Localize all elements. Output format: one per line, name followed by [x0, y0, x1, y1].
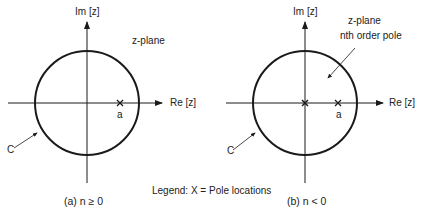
pole-label-a: a	[117, 110, 123, 120]
caption-a: (a) n ≥ 0	[64, 196, 103, 207]
imag-axis-label-a: Im [z]	[75, 7, 99, 17]
contour-label-b: C	[227, 146, 234, 156]
nth-order-pole-label: nth order pole	[340, 31, 402, 41]
plane-label-a: z-plane	[132, 36, 165, 46]
contour-label-a: C	[7, 145, 14, 155]
panel-a	[8, 22, 162, 183]
caption-b: (b) n < 0	[287, 196, 326, 207]
legend: Legend: X = Pole locations	[152, 186, 271, 196]
contour-pointer-arrow-b	[233, 133, 255, 150]
panel-b	[226, 22, 383, 183]
pole-label-b: a	[336, 110, 342, 120]
real-axis-label-b: Re [z]	[389, 98, 415, 108]
nth-order-pole-arrow	[328, 48, 355, 78]
imag-axis-label-b: Im [z]	[293, 7, 317, 17]
plane-label-b: z-plane	[348, 16, 381, 26]
real-axis-label-a: Re [z]	[170, 98, 196, 108]
contour-pointer-arrow-a	[14, 133, 37, 148]
